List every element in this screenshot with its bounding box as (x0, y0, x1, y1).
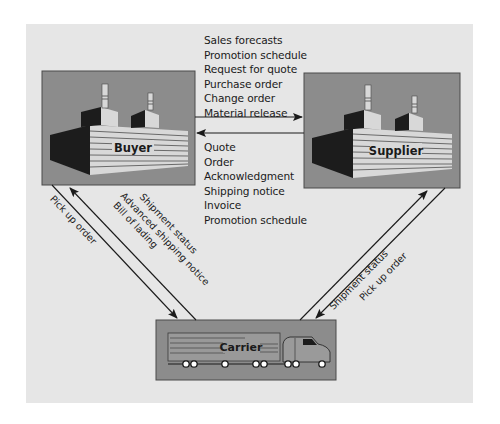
message-item: Promotion schedule (204, 48, 307, 63)
message-item: Request for quote (204, 62, 307, 77)
message-item: Material release (204, 106, 307, 121)
buyer-to-supplier-messages: Sales forecasts Promotion schedule Reque… (204, 33, 307, 121)
message-item: Quote (204, 140, 307, 155)
message-item: Order (204, 155, 307, 170)
buyer-node: Buyer (42, 71, 195, 185)
supplier-to-buyer-messages: Quote Order Acknowledgment Shipping noti… (204, 140, 307, 228)
message-item: Change order (204, 91, 307, 106)
message-item: Promotion schedule (204, 213, 307, 228)
message-item: Shipping notice (204, 184, 307, 199)
diagram-canvas: Buyer (0, 0, 500, 424)
message-item: Sales forecasts (204, 33, 307, 48)
supplier-node: Supplier (304, 73, 460, 188)
message-item: Invoice (204, 198, 307, 213)
message-item: Purchase order (204, 77, 307, 92)
buyer-label: Buyer (114, 141, 152, 155)
carrier-label: Carrier (219, 341, 263, 354)
supplier-label: Supplier (369, 144, 424, 158)
message-item: Acknowledgment (204, 169, 307, 184)
carrier-node: Carrier (156, 320, 336, 380)
